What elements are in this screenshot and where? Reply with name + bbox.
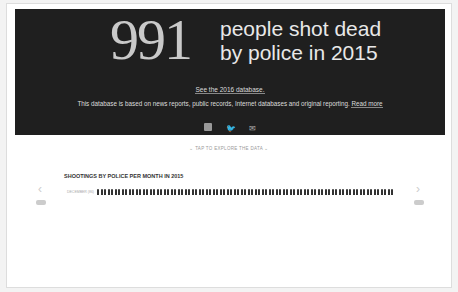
person-icon[interactable] <box>202 189 204 195</box>
person-icon[interactable] <box>157 189 159 195</box>
tap-to-explore[interactable]: ⌄ TAP TO EXPLORE THE DATA ⌄ <box>0 146 458 151</box>
person-icon[interactable] <box>146 189 148 195</box>
person-icon[interactable] <box>318 189 320 195</box>
person-icon[interactable] <box>293 189 295 195</box>
person-icon[interactable] <box>360 189 362 195</box>
person-icon[interactable] <box>300 189 302 195</box>
person-icon[interactable] <box>216 189 218 195</box>
twitter-icon[interactable]: 🐦 <box>226 125 234 133</box>
person-icon[interactable] <box>160 189 162 195</box>
person-icon[interactable] <box>122 189 124 195</box>
person-icon[interactable] <box>370 189 372 195</box>
person-icon[interactable] <box>213 189 215 195</box>
person-icon[interactable] <box>139 189 141 195</box>
person-icon[interactable] <box>143 189 145 195</box>
person-icon[interactable] <box>195 189 197 195</box>
person-icon[interactable] <box>297 189 299 195</box>
prev-arrow-icon[interactable]: ‹ <box>38 182 42 196</box>
person-icon[interactable] <box>381 189 383 195</box>
description: This database is based on news reports, … <box>15 100 445 107</box>
person-icon[interactable] <box>311 189 313 195</box>
headline: people shot dead by police in 2015 <box>220 17 381 65</box>
person-icon[interactable] <box>325 189 327 195</box>
person-icon[interactable] <box>279 189 281 195</box>
person-icon[interactable] <box>241 189 243 195</box>
month-label: DECEMBER (86) <box>67 187 94 197</box>
person-icon[interactable] <box>101 189 103 195</box>
person-icon[interactable] <box>115 189 117 195</box>
next-arrow-icon[interactable]: › <box>416 182 420 196</box>
person-icon[interactable] <box>255 189 257 195</box>
person-icon[interactable] <box>391 189 393 195</box>
person-icon[interactable] <box>209 189 211 195</box>
person-icon[interactable] <box>346 189 348 195</box>
person-icon[interactable] <box>136 189 138 195</box>
person-icon[interactable] <box>104 189 106 195</box>
chart-title: SHOOTINGS BY POLICE PER MONTH IN 2015 <box>64 173 183 179</box>
person-icon[interactable] <box>304 189 306 195</box>
person-icon[interactable] <box>167 189 169 195</box>
person-icon[interactable] <box>150 189 152 195</box>
person-icon[interactable] <box>178 189 180 195</box>
facebook-icon[interactable] <box>204 123 212 131</box>
person-icon[interactable] <box>153 189 155 195</box>
person-icon[interactable] <box>230 189 232 195</box>
person-icon[interactable] <box>248 189 250 195</box>
person-icon[interactable] <box>118 189 120 195</box>
person-icon[interactable] <box>339 189 341 195</box>
person-icon[interactable] <box>342 189 344 195</box>
person-icon[interactable] <box>181 189 183 195</box>
person-icon[interactable] <box>111 189 113 195</box>
email-icon[interactable]: ✉ <box>248 125 256 133</box>
person-icon[interactable] <box>251 189 253 195</box>
person-icon[interactable] <box>353 189 355 195</box>
person-icon[interactable] <box>388 189 390 195</box>
person-icon[interactable] <box>234 189 236 195</box>
person-icon[interactable] <box>290 189 292 195</box>
person-icon[interactable] <box>174 189 176 195</box>
person-icon[interactable] <box>129 189 131 195</box>
person-icon[interactable] <box>321 189 323 195</box>
person-icon[interactable] <box>171 189 173 195</box>
person-icon[interactable] <box>356 189 358 195</box>
person-icon[interactable] <box>283 189 285 195</box>
person-icon[interactable] <box>188 189 190 195</box>
person-icon[interactable] <box>335 189 337 195</box>
person-icon[interactable] <box>125 189 127 195</box>
person-icon[interactable] <box>223 189 225 195</box>
person-icon[interactable] <box>384 189 386 195</box>
person-icon[interactable] <box>244 189 246 195</box>
person-icon[interactable] <box>220 189 222 195</box>
read-more-link[interactable]: Read more <box>351 100 382 108</box>
person-icon[interactable] <box>258 189 260 195</box>
person-icon[interactable] <box>227 189 229 195</box>
social-bar: 🐦✉ <box>15 117 445 135</box>
person-icon[interactable] <box>276 189 278 195</box>
person-icon[interactable] <box>164 189 166 195</box>
person-icon[interactable] <box>314 189 316 195</box>
description-text: This database is based on news reports, … <box>77 100 349 107</box>
person-icon[interactable] <box>265 189 267 195</box>
person-icon[interactable] <box>374 189 376 195</box>
person-icon[interactable] <box>307 189 309 195</box>
person-icon[interactable] <box>377 189 379 195</box>
person-icon[interactable] <box>185 189 187 195</box>
person-icon[interactable] <box>332 189 334 195</box>
person-icon[interactable] <box>237 189 239 195</box>
person-icon[interactable] <box>108 189 110 195</box>
person-icon[interactable] <box>192 189 194 195</box>
person-icon[interactable] <box>328 189 330 195</box>
person-icon[interactable] <box>269 189 271 195</box>
person-icon[interactable] <box>97 189 99 195</box>
hero-banner: 991 people shot dead by police in 2015 S… <box>15 9 445 135</box>
person-icon[interactable] <box>367 189 369 195</box>
person-icon[interactable] <box>199 189 201 195</box>
person-icon[interactable] <box>349 189 351 195</box>
person-icon[interactable] <box>363 189 365 195</box>
person-icon[interactable] <box>206 189 208 195</box>
see-2016-link[interactable]: See the 2016 database. <box>195 86 264 94</box>
person-icon[interactable] <box>272 189 274 195</box>
person-icon[interactable] <box>132 189 134 195</box>
person-icon[interactable] <box>286 189 288 195</box>
person-icon[interactable] <box>262 189 264 195</box>
